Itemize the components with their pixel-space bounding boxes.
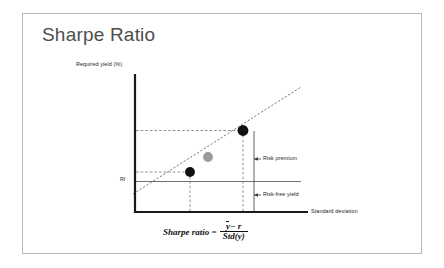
formula-left-side: Sharpe ratio = [163,227,217,237]
capital-market-line [133,87,301,194]
data-point-portfolio-mid [203,152,213,162]
sharpe-ratio-formula: Sharpe ratio = y− r Std(y) [163,222,248,242]
formula-numerator: y− r [223,222,244,231]
risk-free-marker-label: Rf [120,176,125,182]
data-point-portfolio-low [185,167,195,177]
risk-free-yield-arrow-icon [254,193,258,197]
y-axis-label: Required yield (%) [76,61,122,67]
formula-numerator-rest: − r [230,221,241,231]
risk-free-yield-label: Risk-free yield [263,191,299,197]
risk-premium-arrow-icon [254,157,258,161]
formula-fraction: y− r Std(y) [220,222,248,242]
data-point-portfolio-high [238,125,249,136]
x-axis-label: Standard deviation [311,208,358,214]
formula-denominator: Std(y) [220,231,248,241]
risk-premium-label: Risk premium [263,155,297,161]
slide-canvas: Sharpe Ratio Required yield (%) Stand [0,0,444,268]
formula-y-bar: y [226,222,230,231]
